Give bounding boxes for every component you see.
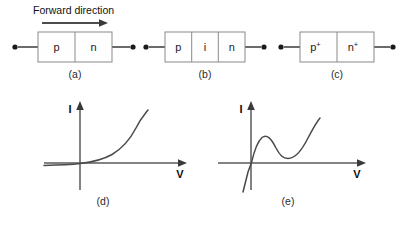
forward-direction-label: Forward direction [33, 4, 114, 16]
device-a-left-terminal [12, 44, 17, 49]
device-b: p i n (b) [143, 32, 266, 80]
forward-direction-annotation: Forward direction [33, 4, 114, 27]
right-arrow-icon [42, 19, 108, 27]
graph-e-x-axis-arrowhead [357, 159, 366, 167]
graph-d-y-axis-label: I [68, 103, 71, 115]
graph-e: I V (e) [218, 101, 366, 207]
device-c-region-n-superscript: + [354, 40, 359, 49]
device-b-caption: (b) [199, 68, 212, 80]
device-a-region-p: p [53, 41, 59, 53]
semiconductor-diode-figure: Forward direction p n (a) [0, 0, 403, 225]
graph-d-iv-curve [44, 110, 148, 166]
device-a-region-n: n [90, 41, 96, 53]
graph-e-y-axis-arrowhead [247, 101, 255, 110]
device-b-right-terminal [261, 44, 266, 49]
graph-e-caption: (e) [282, 195, 295, 207]
graph-e-y-axis-label: I [239, 103, 242, 115]
device-b-left-terminal [143, 44, 148, 49]
device-c: p+ n+ (c) [278, 32, 395, 80]
graph-d-x-axis-label: V [176, 168, 184, 180]
graph-d-y-axis-arrowhead [76, 101, 84, 110]
device-b-region-p: p [175, 41, 181, 53]
device-a-right-terminal [130, 44, 135, 49]
device-a: p n (a) [12, 32, 135, 80]
device-c-region-p-superscript: + [316, 40, 321, 49]
graph-d: I V (d) [44, 101, 187, 207]
device-c-caption: (c) [331, 68, 343, 80]
device-b-region-n: n [229, 41, 235, 53]
graph-e-iv-curve [243, 118, 320, 192]
graph-e-x-axis-label: V [353, 168, 361, 180]
graph-d-caption: (d) [97, 195, 110, 207]
graph-d-x-axis-arrowhead [178, 159, 187, 167]
device-c-left-terminal [278, 44, 283, 49]
device-b-region-i: i [204, 41, 206, 53]
device-c-right-terminal [390, 44, 395, 49]
device-a-caption: (a) [69, 68, 82, 80]
